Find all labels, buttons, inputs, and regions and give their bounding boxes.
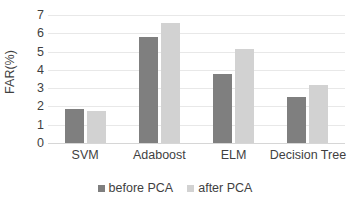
x-axis-category-labels: SVMAdaboostELMDecision Tree xyxy=(48,147,345,167)
gridline xyxy=(48,33,345,34)
legend-label: before PCA xyxy=(109,181,174,195)
y-axis-tick-label: 2 xyxy=(22,100,44,113)
gridline xyxy=(48,70,345,71)
y-axis-tick-labels: 01234567 xyxy=(22,8,44,148)
legend-label: after PCA xyxy=(198,181,252,195)
gridline xyxy=(48,88,345,89)
x-axis-category-label: SVM xyxy=(72,147,99,163)
bar xyxy=(213,74,232,143)
bar xyxy=(87,111,106,143)
plot-area xyxy=(48,15,345,143)
y-axis-tick-label: 1 xyxy=(22,118,44,131)
y-axis-tick-label: 5 xyxy=(22,45,44,58)
chart-legend: before PCAafter PCA xyxy=(0,178,350,198)
legend-item[interactable]: after PCA xyxy=(187,181,252,195)
y-axis-tick-label: 0 xyxy=(22,137,44,150)
bar xyxy=(139,37,158,143)
bar xyxy=(65,109,84,143)
bar xyxy=(235,49,254,143)
legend-swatch-icon xyxy=(98,185,105,192)
gridline xyxy=(48,52,345,53)
x-axis-line xyxy=(48,143,345,144)
y-axis-tick-label: 3 xyxy=(22,82,44,95)
y-axis-tick-label: 7 xyxy=(22,9,44,22)
legend-item[interactable]: before PCA xyxy=(98,181,174,195)
bar xyxy=(161,23,180,143)
legend-swatch-icon xyxy=(187,185,194,192)
y-axis-tick-label: 6 xyxy=(22,27,44,40)
gridline xyxy=(48,15,345,16)
y-axis-title-label: FAR(%) xyxy=(3,50,17,94)
bar xyxy=(309,85,328,143)
x-axis-category-label: Decision Tree xyxy=(270,147,346,163)
bar xyxy=(287,97,306,143)
y-axis-tick-label: 4 xyxy=(22,63,44,76)
x-axis-category-label: Adaboost xyxy=(133,147,186,163)
bar-chart: FAR(%) 01234567 SVMAdaboostELMDecision T… xyxy=(0,0,350,201)
y-axis-title: FAR(%) xyxy=(0,0,20,143)
x-axis-category-label: ELM xyxy=(221,147,247,163)
